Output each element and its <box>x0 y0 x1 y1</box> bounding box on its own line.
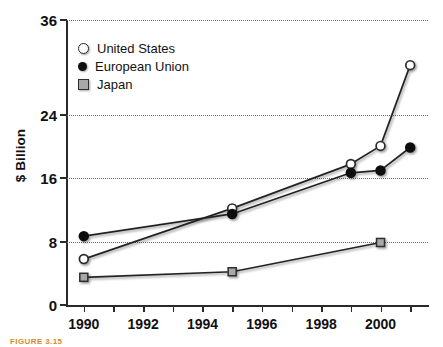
data-point <box>228 210 237 219</box>
x-tick-1995 <box>232 305 234 312</box>
x-tick-1990 <box>84 305 86 312</box>
figure-caption: FIGURE 3.15 <box>10 337 62 346</box>
data-point <box>228 268 236 276</box>
x-tick-1993 <box>173 305 175 312</box>
x-tick-1999 <box>351 305 353 312</box>
x-tick-label-1992: 1992 <box>128 316 159 332</box>
x-tick-label-1990: 1990 <box>68 316 99 332</box>
x-tick-1996 <box>262 305 264 312</box>
data-point <box>406 61 415 70</box>
y-tick-label-16: 16 <box>40 170 57 187</box>
data-point <box>346 160 355 169</box>
data-point <box>80 273 88 281</box>
x-tick-1992 <box>143 305 145 312</box>
data-point <box>376 166 385 175</box>
filled-square-icon <box>78 79 89 90</box>
y-tick-label-0: 0 <box>49 297 57 314</box>
series-line <box>84 147 410 236</box>
data-point <box>376 141 385 150</box>
x-tick-1997 <box>292 305 294 312</box>
figure-container: $ Billion 08162436 199019921994199619982… <box>0 0 443 347</box>
x-tick-label-1994: 1994 <box>187 316 218 332</box>
x-tick-1994 <box>202 305 204 312</box>
legend-item-japan[interactable]: Japan <box>76 76 189 93</box>
series-line <box>84 65 410 259</box>
x-tick-label-2000: 2000 <box>365 316 396 332</box>
legend-item-united-states[interactable]: United States <box>76 40 189 57</box>
legend-label: United States <box>97 41 175 56</box>
x-tick-1998 <box>321 305 323 312</box>
x-tick-label-1998: 1998 <box>306 316 337 332</box>
y-tick-label-24: 24 <box>40 107 57 124</box>
legend-label: Japan <box>97 77 132 92</box>
y-tick-label-36: 36 <box>40 12 57 29</box>
open-circle-icon <box>78 43 89 54</box>
data-point <box>79 255 88 264</box>
data-point <box>377 238 385 246</box>
data-point <box>79 232 88 241</box>
legend-item-european-union[interactable]: European Union <box>76 58 189 75</box>
legend-label: European Union <box>95 59 189 74</box>
data-point <box>346 168 355 177</box>
x-tick-label-1996: 1996 <box>246 316 277 332</box>
y-tick-label-8: 8 <box>49 233 57 250</box>
x-tick-1991 <box>113 305 115 312</box>
x-tick-2000 <box>381 305 383 312</box>
filled-circle-icon <box>78 62 87 71</box>
y-axis-title: $ Billion <box>13 110 28 202</box>
legend: United StatesEuropean UnionJapan <box>76 40 189 94</box>
data-point <box>406 143 415 152</box>
x-tick-2001 <box>410 305 412 312</box>
series-european-union <box>79 143 414 240</box>
